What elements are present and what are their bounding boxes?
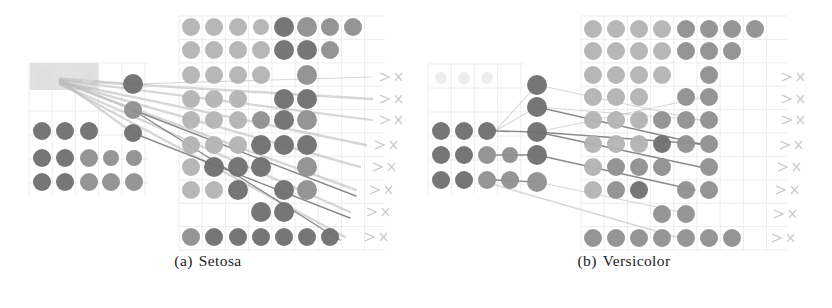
data-node <box>33 122 51 140</box>
data-node <box>630 158 648 176</box>
data-node <box>653 20 671 38</box>
data-node <box>251 202 271 222</box>
data-node <box>229 136 247 154</box>
data-node <box>229 18 247 36</box>
data-node <box>630 229 648 247</box>
data-node <box>321 41 339 59</box>
data-node <box>677 205 695 223</box>
data-node <box>630 111 648 129</box>
data-node <box>478 122 496 140</box>
data-node <box>80 122 98 140</box>
data-node <box>432 171 450 189</box>
data-node <box>321 18 339 36</box>
versicolor-plot <box>416 0 832 252</box>
data-node <box>298 228 316 246</box>
data-node <box>653 111 671 129</box>
figure-container: (a)Setosa (b)Versicolor <box>0 0 832 308</box>
data-node <box>297 110 317 130</box>
data-node <box>33 68 51 86</box>
data-node <box>700 42 718 60</box>
cross-marker-icon <box>789 210 796 218</box>
data-node <box>252 41 270 59</box>
data-node <box>182 90 200 108</box>
data-node <box>274 135 294 155</box>
data-node <box>182 111 200 129</box>
data-node <box>607 135 625 153</box>
data-node <box>182 66 200 84</box>
data-node <box>182 136 200 154</box>
data-node <box>584 111 602 129</box>
cross-marker-icon <box>395 116 402 124</box>
arrow-marker-icon <box>782 95 791 103</box>
data-node <box>630 66 648 84</box>
data-node <box>700 229 718 247</box>
arrow-marker-icon <box>782 116 791 124</box>
data-node <box>33 149 51 167</box>
data-node <box>252 66 270 84</box>
caption-tag-a: (a) <box>174 252 192 269</box>
arrow-marker-icon <box>367 208 376 216</box>
data-node <box>274 17 294 37</box>
data-node <box>435 72 447 84</box>
data-node <box>478 146 496 164</box>
caption-label-a: Setosa <box>199 252 242 269</box>
data-node <box>527 145 547 165</box>
data-node <box>126 150 142 166</box>
data-node <box>527 75 547 95</box>
data-node <box>205 90 223 108</box>
data-node <box>677 20 695 38</box>
data-node <box>677 229 695 247</box>
data-node <box>653 135 671 153</box>
arrow-marker-icon <box>774 210 783 218</box>
data-node <box>229 90 247 108</box>
data-node <box>584 135 602 153</box>
data-node <box>653 205 671 223</box>
data-node <box>653 42 671 60</box>
panel-versicolor: (b)Versicolor <box>416 0 832 308</box>
data-node <box>182 18 200 36</box>
data-node <box>80 149 98 167</box>
data-node <box>205 111 223 129</box>
data-node <box>584 158 602 176</box>
caption-tag-b: (b) <box>578 252 597 269</box>
data-node <box>584 42 602 60</box>
data-node <box>677 111 695 129</box>
setosa-plot <box>0 0 416 252</box>
data-node <box>205 66 223 84</box>
data-node <box>124 101 142 119</box>
data-node <box>205 41 223 59</box>
data-node <box>432 122 450 140</box>
data-node <box>205 181 223 199</box>
data-node <box>432 146 450 164</box>
data-node <box>228 157 248 177</box>
data-node <box>103 150 119 166</box>
data-node <box>584 88 602 106</box>
data-node <box>253 19 269 35</box>
edge-link <box>133 77 372 84</box>
cross-marker-icon <box>797 73 804 81</box>
data-node <box>182 158 200 176</box>
cross-marker-icon <box>793 163 800 171</box>
arrow-marker-icon <box>373 163 382 171</box>
data-node <box>723 229 741 247</box>
data-node <box>102 173 120 191</box>
data-node <box>700 20 718 38</box>
cross-marker-icon <box>797 95 804 103</box>
data-node <box>274 202 294 222</box>
data-node <box>229 41 247 59</box>
arrow-marker-icon <box>380 95 389 103</box>
cross-marker-icon <box>390 141 397 149</box>
cross-marker-icon <box>791 186 798 194</box>
arrow-marker-icon <box>380 116 389 124</box>
data-node <box>677 181 695 199</box>
data-node <box>630 181 648 199</box>
arrow-marker-icon <box>380 73 389 81</box>
data-node <box>700 66 718 84</box>
data-node <box>584 20 602 38</box>
arrow-marker-icon <box>365 233 374 241</box>
data-node <box>746 20 764 38</box>
data-node <box>297 65 317 85</box>
data-node <box>297 40 317 60</box>
data-node <box>275 228 293 246</box>
data-node <box>80 173 98 191</box>
